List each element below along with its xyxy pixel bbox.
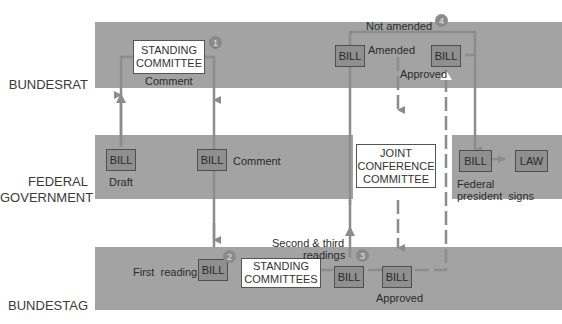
government-bill-draft: BILL bbox=[106, 149, 136, 171]
bundestag-bill-first: BILL bbox=[198, 259, 228, 281]
row-label-bundestag: BUNDESTAG bbox=[0, 298, 88, 314]
bundesrat-comment-label: Comment bbox=[145, 75, 193, 87]
bundestag-bill-readings: BILL bbox=[334, 266, 364, 288]
bundestag-approved-label: Approved bbox=[376, 292, 423, 304]
government-bill-comment: BILL bbox=[197, 149, 227, 171]
step-1-badge: 1 bbox=[209, 36, 222, 49]
government-comment-label: Comment bbox=[233, 155, 281, 167]
first-reading-label: First reading bbox=[133, 266, 197, 278]
bundesrat-bill-approved: BILL bbox=[431, 45, 461, 67]
bundestag-bill-approved: BILL bbox=[382, 266, 412, 288]
law-box: LAW bbox=[515, 150, 548, 172]
standing-committee-line1: STANDING bbox=[141, 44, 197, 57]
federal-label: Federal bbox=[457, 178, 494, 190]
standing-committees-line2: COMMITTEES bbox=[244, 273, 317, 286]
step-4-badge: 4 bbox=[435, 14, 448, 27]
joint-line3: COMMITTEE bbox=[363, 173, 429, 186]
row-label-government: GOVERNMENT bbox=[0, 190, 88, 206]
bundesrat-bill-amended: BILL bbox=[335, 45, 365, 67]
row-label-federal: FEDERAL bbox=[0, 174, 88, 190]
row-label-bundesrat: BUNDESRAT bbox=[0, 77, 88, 93]
not-amended-label: Not amended bbox=[366, 20, 432, 32]
draft-label: Draft bbox=[109, 176, 133, 188]
president-bill: BILL bbox=[459, 150, 492, 172]
president-signs-label: president signs bbox=[457, 190, 534, 202]
standing-committee-line2: COMMITTEE bbox=[136, 57, 202, 70]
second-third-label-2: readings bbox=[303, 249, 345, 261]
joint-conference-committee-box: JOINT CONFERENCE COMMITTEE bbox=[356, 144, 436, 188]
standing-committees-box: STANDING COMMITTEES bbox=[241, 258, 321, 288]
joint-line1: JOINT bbox=[380, 147, 412, 160]
bundesrat-approved-label: Approved bbox=[400, 68, 447, 80]
step-3-badge: 3 bbox=[356, 249, 369, 262]
standing-committee-box: STANDING COMMITTEE bbox=[133, 40, 205, 74]
amended-label: Amended bbox=[368, 44, 415, 56]
joint-line2: CONFERENCE bbox=[357, 160, 434, 173]
second-third-label-1: Second & third bbox=[272, 237, 344, 249]
standing-committees-line1: STANDING bbox=[253, 260, 309, 273]
step-2-badge: 2 bbox=[223, 250, 236, 263]
